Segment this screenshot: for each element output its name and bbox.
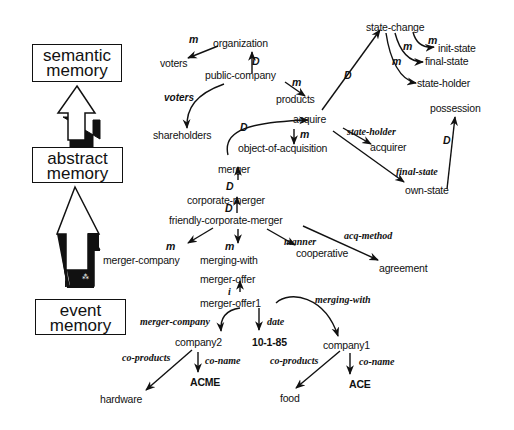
node-date-value: 10-1-85	[252, 336, 287, 348]
node-acquire: acquire	[293, 113, 326, 125]
edge-label-co-name: co-name	[359, 356, 395, 367]
edge-public-company-shareholders	[187, 84, 224, 128]
event-memory-line2: memory	[36, 318, 125, 333]
node-object-of-acquisition: object-of-acquisition	[238, 142, 327, 154]
node-final-state: final-state	[425, 55, 468, 67]
node-acquirer: acquirer	[370, 141, 406, 153]
semantic-memory-box: semantic memory	[32, 44, 122, 82]
node-init-state: init-state	[438, 42, 476, 54]
node-agreement: agreement	[379, 262, 427, 274]
edge-label-D: D	[344, 69, 352, 81]
node-merging-with: merging-with	[200, 254, 258, 266]
edge-label-state-holder: state-holder	[347, 126, 396, 137]
node-products: products	[276, 93, 315, 105]
node-acme: ACME	[190, 376, 220, 388]
edge-label-D: D	[226, 180, 234, 192]
node-shareholders: shareholders	[153, 129, 211, 141]
edge-label-m: m	[225, 240, 234, 252]
semantic-memory-line2: memory	[33, 63, 121, 78]
node-merger-offer1: merger-offer1	[200, 297, 261, 309]
edge-acquire-own-state	[333, 131, 404, 182]
node-ace: ACE	[349, 378, 371, 390]
node-cooperative: cooperative	[296, 247, 348, 259]
edge-label-D: D	[252, 55, 260, 67]
node-state-holder: state-holder	[417, 77, 470, 89]
edge-label-co-name: co-name	[205, 355, 241, 366]
edge-label-m: m	[292, 76, 301, 88]
memory-hierarchy-diagram: ⁂ semantic memory abstract memory event …	[0, 0, 514, 430]
node-organization: organization	[213, 37, 268, 49]
node-company1: company1	[323, 339, 370, 351]
edge-label-voters: voters	[164, 92, 194, 103]
svg-text:⁂: ⁂	[82, 273, 89, 281]
upward-arrow-abstract-to-semantic	[58, 86, 100, 147]
edge-friendly-merger-company	[188, 228, 213, 243]
edge-label-final-state: final-state	[396, 166, 438, 177]
node-company2: company2	[175, 336, 222, 348]
edge-label-m: m	[403, 40, 412, 52]
edge-label-merger-company: merger-company	[140, 316, 210, 327]
node-food: food	[280, 392, 300, 404]
upward-arrow-event-to-abstract: ⁂	[57, 187, 100, 288]
edge-label-co-products: co-products	[270, 355, 318, 366]
node-public-company: public-company	[205, 69, 276, 81]
edge-label-manner: manner	[284, 236, 316, 247]
edge-label-D: D	[240, 121, 248, 133]
node-voters: voters	[160, 57, 187, 69]
edge-label-date: date	[267, 316, 284, 327]
event-memory-box: event memory	[35, 299, 126, 335]
node-state-change: state-change	[366, 21, 424, 33]
abstract-memory-box: abstract memory	[32, 147, 123, 183]
edge-label-m: m	[428, 34, 437, 46]
node-merger: merger	[218, 163, 250, 175]
edge-label-m: m	[392, 55, 401, 67]
edge-label-m: m	[189, 33, 198, 45]
abstract-memory-line2: memory	[33, 166, 122, 181]
edge-offer1-company2	[221, 308, 240, 331]
node-friendly-corporate-merger: friendly-corporate-merger	[169, 214, 282, 226]
edge-label-acq-method: acq-method	[344, 230, 392, 241]
edge-own-state-possession	[447, 117, 455, 189]
node-possession: possession	[430, 102, 481, 114]
edge-label-m: m	[300, 128, 309, 140]
edge-label-co-products: co-products	[122, 352, 170, 363]
edge-label-merging-with: merging-with	[315, 294, 371, 305]
node-own-state: own-state	[405, 184, 449, 196]
edge-label-m: m	[166, 240, 175, 252]
edge-label-D: D	[443, 134, 451, 146]
node-hardware: hardware	[100, 393, 142, 405]
node-merger-offer: merger-offer	[200, 273, 255, 285]
node-merger-company: merger-company	[103, 254, 180, 266]
edge-label-D: D	[225, 202, 233, 214]
edge-label-i: i	[228, 286, 231, 297]
